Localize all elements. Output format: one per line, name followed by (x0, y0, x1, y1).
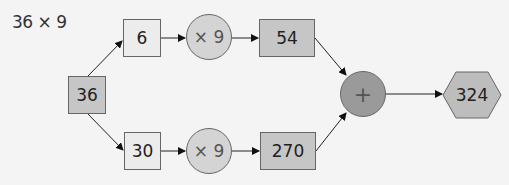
top-op-label: × 9 (194, 27, 224, 47)
bottom-part-node: 30 (124, 132, 161, 170)
top-part-node: 6 (123, 19, 161, 57)
bottom-multiply-circle: × 9 (186, 128, 232, 174)
top-multiply-circle: × 9 (186, 14, 232, 60)
bottom-op-label: × 9 (194, 141, 224, 161)
top-part-value: 6 (137, 28, 148, 48)
top-result-value: 54 (276, 28, 298, 48)
top-result-node: 54 (259, 19, 315, 57)
problem-title: 36 × 9 (12, 12, 67, 32)
start-node: 36 (68, 76, 106, 114)
bottom-result-value: 270 (272, 141, 304, 161)
bottom-result-node: 270 (260, 132, 316, 170)
final-value: 324 (443, 72, 501, 118)
plus-icon: + (354, 82, 372, 107)
sum-circle: + (340, 71, 386, 117)
bottom-part-value: 30 (132, 141, 154, 161)
start-value: 36 (76, 85, 98, 105)
